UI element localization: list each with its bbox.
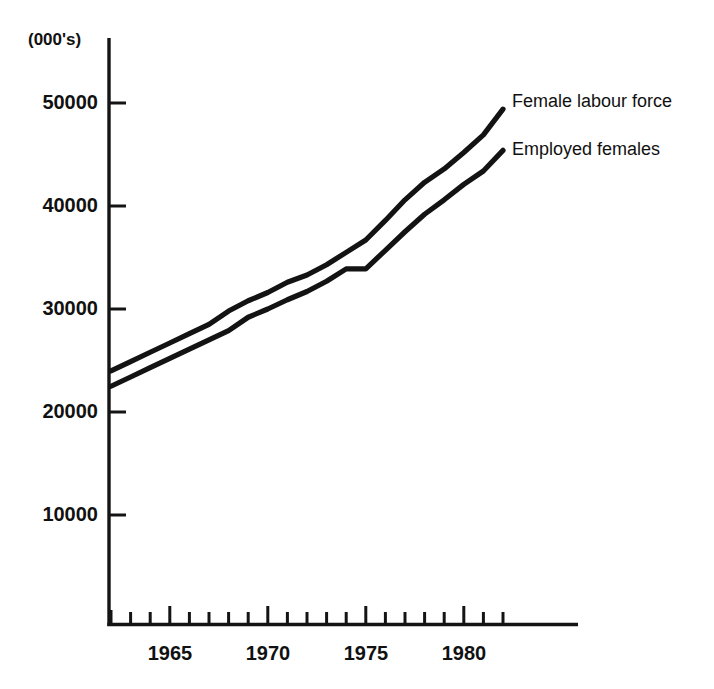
y-axis-ticks <box>109 103 126 515</box>
y-tick-label-50000: 50000 <box>0 91 98 114</box>
y-axis-unit-label: (000's) <box>28 30 81 50</box>
y-tick-label-30000: 30000 <box>0 297 98 320</box>
legend-label-employed-females: Employed females <box>512 139 660 160</box>
x-axis-ticks <box>111 606 503 624</box>
series-line-female-labour-force <box>111 109 503 371</box>
x-tick-label-1980: 1980 <box>414 642 514 665</box>
y-tick-label-40000: 40000 <box>0 194 98 217</box>
y-tick-label-20000: 20000 <box>0 400 98 423</box>
legend-label-female-labour-force: Female labour force <box>512 91 672 112</box>
x-tick-label-1965: 1965 <box>120 642 220 665</box>
y-tick-label-10000: 10000 <box>0 503 98 526</box>
series-line-employed-females <box>111 150 503 386</box>
line-chart: (000's) 50000 40000 30000 20000 10000 19… <box>0 0 714 689</box>
x-tick-label-1970: 1970 <box>218 642 318 665</box>
x-tick-label-1975: 1975 <box>316 642 416 665</box>
